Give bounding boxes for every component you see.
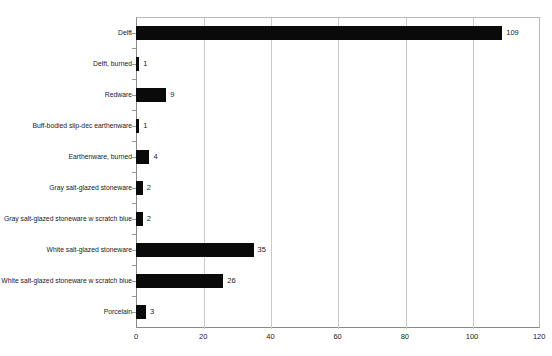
category-label: White salt-glazed stoneware: [0, 247, 132, 254]
x-tick-label: 20: [199, 333, 207, 341]
bar[interactable]: [136, 57, 139, 71]
category-label: Redware: [0, 91, 132, 98]
bar-value-label: 9: [170, 91, 174, 99]
category-label: Buff-bodied slip-dec earthenware: [0, 122, 132, 129]
bar-value-label: 2: [147, 184, 151, 192]
category-label: Porcelain: [0, 309, 132, 316]
category-label: Gray salt-glazed stoneware: [0, 185, 132, 192]
category-label: White salt-glazed stoneware w scratch bl…: [0, 278, 132, 285]
bar[interactable]: [136, 181, 143, 195]
chart-title: [0, 0, 552, 2]
x-tick-label: 40: [266, 333, 274, 341]
bar[interactable]: [136, 26, 502, 40]
category-label: Delft: [0, 29, 132, 36]
bar-value-label: 2: [147, 215, 151, 223]
bar-value-label: 3: [150, 309, 154, 317]
bar[interactable]: [136, 212, 143, 226]
x-tick-label: 100: [466, 333, 479, 341]
x-tick-label: 0: [134, 333, 138, 341]
bar-row: Delft, burned1: [0, 48, 552, 79]
bar-value-label: 109: [506, 29, 519, 37]
bar-value-label: 35: [258, 246, 266, 254]
bar[interactable]: [136, 243, 254, 257]
bar-row: Gray salt-glazed stoneware2: [0, 173, 552, 204]
bar-row: Delft109: [0, 17, 552, 48]
bar-row: Porcelain3: [0, 297, 552, 328]
bar-row: Gray salt-glazed stoneware w scratch blu…: [0, 204, 552, 235]
bar-row: White salt-glazed stoneware35: [0, 235, 552, 266]
x-tick-label: 60: [333, 333, 341, 341]
bar-chart: Delft109Delft, burned1Redware9Buff-bodie…: [0, 0, 552, 356]
bar[interactable]: [136, 305, 146, 319]
bar[interactable]: [136, 150, 149, 164]
bar-value-label: 26: [227, 278, 235, 286]
bar-row: Buff-bodied slip-dec earthenware1: [0, 110, 552, 141]
category-label: Earthenware, burned: [0, 154, 132, 161]
category-label: Delft, burned: [0, 60, 132, 67]
bar[interactable]: [136, 274, 223, 288]
bar-value-label: 4: [153, 153, 157, 161]
x-tick-label: 120: [533, 333, 546, 341]
bar-value-label: 1: [143, 60, 147, 68]
bar-row: White salt-glazed stoneware w scratch bl…: [0, 266, 552, 297]
bar-value-label: 1: [143, 122, 147, 130]
bar[interactable]: [136, 119, 139, 133]
category-label: Gray salt-glazed stoneware w scratch blu…: [0, 216, 132, 223]
bar-row: Redware9: [0, 79, 552, 110]
x-tick-label: 80: [401, 333, 409, 341]
bar-row: Earthenware, burned4: [0, 141, 552, 172]
bar[interactable]: [136, 88, 166, 102]
